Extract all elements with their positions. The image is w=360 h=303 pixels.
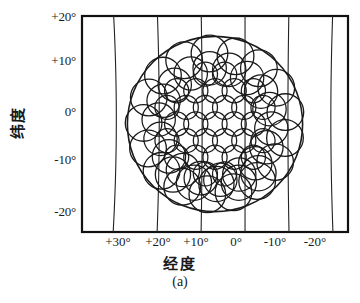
y-tick-label-0: +20° (22, 9, 76, 25)
x-tick-label-5: -20° (290, 234, 340, 250)
plot-frame (82, 16, 348, 232)
figure-container: +20° +10° 0° -10° -20° +30° +20° +10° 0°… (0, 0, 360, 303)
figure-caption: (a) (0, 274, 360, 290)
y-tick-label-2: 0° (22, 104, 76, 120)
y-tick-label-4: -20° (22, 204, 76, 220)
y-tick-label-1: +10° (22, 53, 76, 69)
y-tick-label-3: -10° (22, 152, 76, 168)
y-axis-title: 纬度 (6, 95, 27, 151)
x-axis-title: 经度 (0, 252, 360, 273)
plot-frame-rect (82, 16, 348, 232)
